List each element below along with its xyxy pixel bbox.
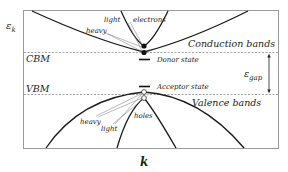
holes-label: holes — [134, 112, 153, 120]
valence-bands-label: Valence bands — [192, 97, 261, 108]
conduction-light-label: light — [104, 16, 120, 24]
electron-heavy-dot — [141, 50, 146, 55]
electrons-label: electrons — [133, 16, 166, 24]
x-axis-label: k — [140, 155, 148, 169]
cbm-label: CBM — [26, 53, 50, 64]
gap-arrow-down-icon — [267, 90, 270, 94]
gap-label: εgap — [244, 68, 263, 82]
donor-state-label: Donor state — [156, 56, 199, 64]
pointer-light-electron — [130, 22, 143, 46]
valence-band-light — [117, 98, 176, 148]
conduction-bands-label: Conduction bands — [188, 38, 275, 49]
conduction-heavy-label: heavy — [86, 27, 108, 35]
valence-heavy-label: heavy — [80, 118, 102, 126]
hole-heavy-circle — [142, 90, 147, 95]
band-diagram: εk k CBM VBM Conduction bands Valence ba… — [0, 0, 288, 172]
vbm-label: VBM — [26, 83, 50, 94]
valence-light-label: light — [101, 125, 117, 133]
pointer-light-electron-2 — [128, 23, 142, 51]
acceptor-state-label: Acceptor state — [156, 83, 209, 91]
gap-arrow-up-icon — [267, 54, 270, 58]
plot-frame — [24, 11, 279, 149]
hole-light-circle — [142, 96, 147, 101]
y-axis-label: εk — [6, 20, 16, 34]
electron-light-dot — [141, 43, 146, 48]
